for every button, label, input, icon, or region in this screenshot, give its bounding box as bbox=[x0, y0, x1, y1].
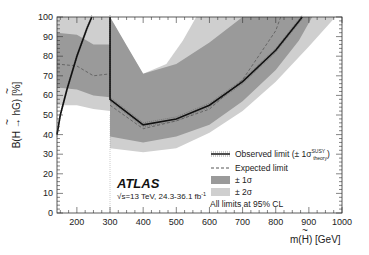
x-tick-label: 500 bbox=[169, 217, 184, 227]
y-tick-label: 50 bbox=[43, 110, 53, 120]
x-axis-title: m(H) [GeV] bbox=[290, 234, 341, 245]
x-tick-label: 700 bbox=[235, 217, 250, 227]
x-tick-label: 400 bbox=[136, 217, 151, 227]
bands-layer bbox=[57, 17, 335, 152]
y-title-tilde-h: ~ bbox=[2, 88, 13, 94]
svg-text:± 1σ: ± 1σ bbox=[235, 175, 253, 185]
x-title-tilde: ~ bbox=[302, 225, 308, 236]
y-tick-label: 0 bbox=[48, 208, 53, 218]
y-tick-label: 60 bbox=[43, 90, 53, 100]
legend-cl-note: All limits at 95% CL bbox=[210, 199, 283, 209]
x-tick-label: 600 bbox=[202, 217, 217, 227]
atlas-label: ATLAS bbox=[116, 176, 160, 191]
y-tick-label: 30 bbox=[43, 149, 53, 159]
legend-two-sigma: ± 2σ bbox=[211, 187, 253, 197]
y-tick-label: 40 bbox=[43, 130, 53, 140]
y-tick-label: 80 bbox=[43, 51, 53, 61]
svg-text:± 2σ: ± 2σ bbox=[235, 187, 253, 197]
legend: Observed limit (± 1σSUSYtheory) Expected… bbox=[210, 148, 330, 209]
x-tick-label: 1000 bbox=[332, 217, 352, 227]
legend-observed: Observed limit (± 1σSUSYtheory) bbox=[211, 148, 330, 161]
x-tick-label: 200 bbox=[69, 217, 84, 227]
svg-text:Observed limit (± 1σSUSYtheory: Observed limit (± 1σSUSYtheory) bbox=[235, 148, 330, 161]
x-tick-label: 800 bbox=[268, 217, 283, 227]
y-tick-label: 10 bbox=[43, 188, 53, 198]
y-title-tilde-g: ~ bbox=[2, 119, 13, 125]
y-tick-label: 20 bbox=[43, 169, 53, 179]
x-tick-label: 300 bbox=[103, 217, 118, 227]
exclusion-limit-chart: 2003004005006007008009001000010203040506… bbox=[0, 0, 369, 255]
svg-text:Expected limit: Expected limit bbox=[235, 163, 289, 173]
y-tick-label: 100 bbox=[38, 12, 53, 22]
legend-expected: Expected limit bbox=[211, 163, 289, 173]
y-tick-label: 90 bbox=[43, 32, 53, 42]
legend-one-sigma: ± 1σ bbox=[211, 175, 253, 185]
energy-lumi-label: √s=13 TeV, 24.3-36.1 fb-1 bbox=[117, 191, 206, 201]
y-tick-label: 70 bbox=[43, 71, 53, 81]
